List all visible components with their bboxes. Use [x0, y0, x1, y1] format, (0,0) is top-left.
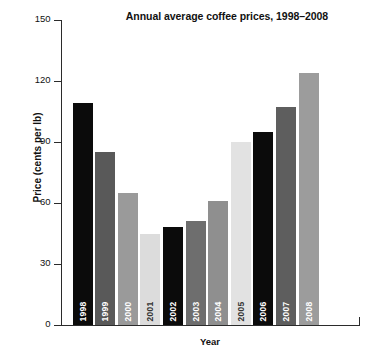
x-axis-end-cap: [359, 317, 360, 326]
bar-label-wrap: 2000: [118, 287, 138, 321]
bar-label-wrap: 1999: [95, 287, 115, 321]
y-axis-tick-label: 120: [25, 74, 51, 85]
bar-2002: 2002: [163, 227, 183, 325]
y-axis-tick: 90: [54, 142, 62, 143]
bar-label-wrap: 2007: [276, 287, 296, 321]
bar-label-wrap: 2002: [163, 287, 183, 321]
bar-label-wrap: 2008: [299, 287, 319, 321]
bar-label-2000: 2000: [124, 301, 133, 321]
bar-2007: 2007: [276, 107, 296, 325]
y-axis-tick-label: 60: [25, 196, 51, 207]
bar-2006: 2006: [253, 132, 273, 325]
bar-label-2007: 2007: [282, 301, 291, 321]
bar-label-2002: 2002: [169, 301, 178, 321]
y-axis-line: [61, 20, 62, 325]
bar-1999: 1999: [95, 152, 115, 325]
bar-label-1998: 1998: [79, 301, 88, 321]
bar-label-wrap: 2003: [186, 287, 206, 321]
bar-2008: 2008: [299, 73, 319, 325]
bar-2003: 2003: [186, 221, 206, 325]
bar-label-2003: 2003: [192, 301, 201, 321]
bar-2005: 2005: [231, 142, 251, 325]
x-axis-line: [61, 325, 360, 326]
bar-2000: 2000: [118, 193, 138, 325]
y-axis-tick: 30: [54, 264, 62, 265]
bar-label-2001: 2001: [146, 301, 155, 321]
y-axis-tick-label: 90: [25, 135, 51, 146]
y-axis-tick-label: 30: [25, 257, 51, 268]
y-axis-tick-label: 150: [25, 13, 51, 24]
y-axis-tick: 60: [54, 203, 62, 204]
y-axis-tick-label: 0: [25, 318, 51, 329]
y-axis-tick: 0: [54, 325, 62, 326]
bar-label-1999: 1999: [101, 301, 110, 321]
bar-label-2005: 2005: [237, 301, 246, 321]
bar-label-wrap: 2001: [140, 287, 160, 321]
y-axis-tick: 120: [54, 81, 62, 82]
bar-2001: 2001: [140, 234, 160, 326]
bar-chart: Annual average coffee prices, 1998–2008 …: [0, 0, 371, 357]
bar-label-wrap: 2004: [208, 287, 228, 321]
y-axis-tick: 150: [54, 20, 62, 21]
bar-label-2004: 2004: [214, 301, 223, 321]
bar-label-wrap: 2005: [231, 287, 251, 321]
bar-label-2008: 2008: [305, 301, 314, 321]
bar-1998: 1998: [73, 103, 93, 325]
plot-area: 0306090120150 19981999200020012002200320…: [61, 20, 360, 325]
x-axis-label: Year: [60, 336, 360, 347]
bar-label-wrap: 1998: [73, 287, 93, 321]
bar-label-2006: 2006: [259, 301, 268, 321]
y-axis-label: Price (cents per lb): [32, 83, 43, 233]
bar-2004: 2004: [208, 201, 228, 325]
bar-label-wrap: 2006: [253, 287, 273, 321]
